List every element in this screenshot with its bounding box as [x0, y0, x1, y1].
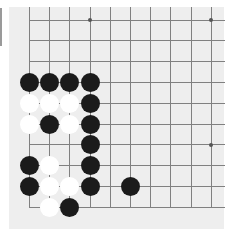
- grid-line-horizontal: [29, 20, 225, 21]
- white-stone[interactable]: [60, 94, 79, 113]
- black-stone[interactable]: [81, 177, 100, 196]
- black-stone[interactable]: [40, 115, 59, 134]
- white-stone[interactable]: [40, 94, 59, 113]
- black-stone[interactable]: [20, 177, 39, 196]
- white-stone[interactable]: [60, 115, 79, 134]
- grid-line-vertical: [110, 7, 111, 208]
- grid-line-vertical: [211, 7, 212, 208]
- black-stone[interactable]: [40, 73, 59, 92]
- white-stone[interactable]: [40, 198, 59, 217]
- white-stone[interactable]: [20, 115, 39, 134]
- go-board[interactable]: [0, 0, 236, 241]
- white-stone[interactable]: [40, 177, 59, 196]
- black-stone[interactable]: [81, 135, 100, 154]
- black-stone[interactable]: [81, 73, 100, 92]
- black-stone[interactable]: [121, 177, 140, 196]
- black-stone[interactable]: [60, 198, 79, 217]
- black-stone[interactable]: [81, 94, 100, 113]
- grid-line-horizontal: [29, 40, 225, 41]
- black-stone[interactable]: [20, 73, 39, 92]
- black-stone[interactable]: [81, 156, 100, 175]
- grid-line-vertical: [191, 7, 192, 208]
- black-stone[interactable]: [81, 115, 100, 134]
- black-stone[interactable]: [20, 156, 39, 175]
- grid-line-horizontal: [29, 144, 225, 145]
- white-stone[interactable]: [20, 94, 39, 113]
- grid-line-vertical: [150, 7, 151, 208]
- grid-line-vertical: [170, 7, 171, 208]
- grid-line-horizontal: [29, 61, 225, 62]
